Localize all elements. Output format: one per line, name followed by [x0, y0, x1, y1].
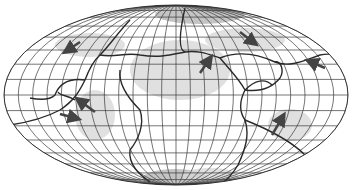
plate-boundary: [245, 81, 272, 90]
plate-boundary: [245, 62, 282, 91]
arrow-left-lower-icon: [60, 114, 75, 118]
upper-left-band: [55, 33, 125, 57]
right-lower: [268, 109, 312, 141]
shaded-regions: [55, 4, 312, 187]
plate-boundary: [58, 92, 75, 100]
center-plate: [130, 40, 230, 100]
world-map: [0, 0, 352, 190]
left-mid: [75, 90, 115, 140]
